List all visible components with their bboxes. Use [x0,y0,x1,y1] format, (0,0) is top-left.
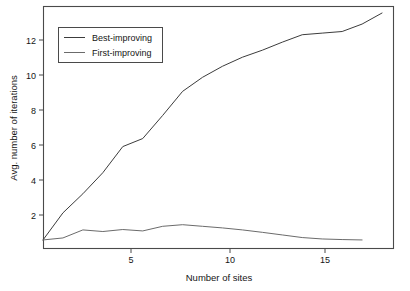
y-axis-ticks [39,40,43,215]
x-axis-ticks [131,249,325,253]
x-axis-title: Number of sites [186,272,253,283]
x-tick-label-10: 10 [225,255,235,265]
legend-label-best-improving: Best-improving [92,33,152,43]
line-chart: 2 4 6 8 10 12 5 10 15 Number of sites Av… [0,0,410,291]
x-axis-tick-labels: 5 10 15 [128,255,330,265]
chart-figure: 2 4 6 8 10 12 5 10 15 Number of sites Av… [0,0,410,291]
y-tick-label-10: 10 [26,71,36,81]
x-tick-label-5: 5 [128,255,133,265]
y-axis-tick-labels: 2 4 6 8 10 12 [26,36,36,221]
x-tick-label-15: 15 [320,255,330,265]
y-tick-label-4: 4 [31,176,36,186]
y-tick-label-6: 6 [31,141,36,151]
y-tick-label-8: 8 [31,106,36,116]
y-tick-label-2: 2 [31,211,36,221]
y-axis-title: Avg. number of iterations [8,75,19,181]
chart-legend: Best-improving First-improving [59,28,163,63]
legend-label-first-improving: First-improving [92,48,152,58]
y-tick-label-12: 12 [26,36,36,46]
